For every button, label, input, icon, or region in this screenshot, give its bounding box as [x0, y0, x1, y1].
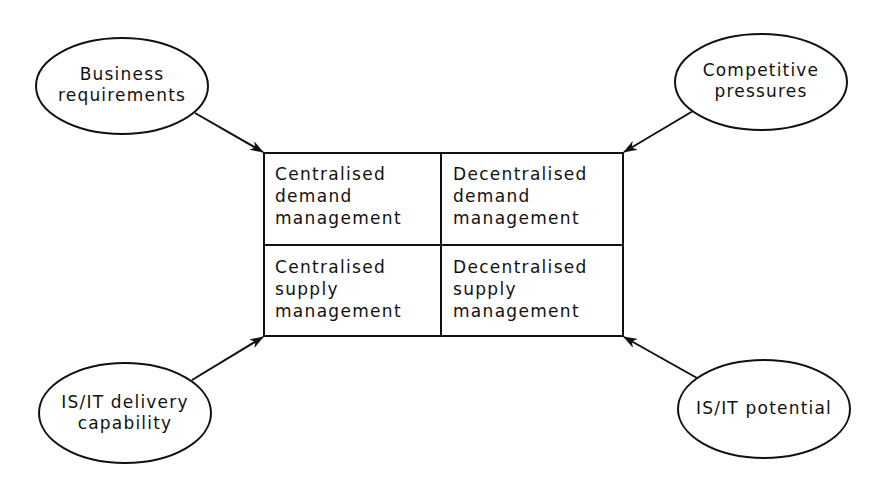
- cell-line: management: [453, 207, 588, 229]
- cell-line: Centralised: [275, 163, 402, 185]
- driver-line: IS/IT delivery: [39, 392, 211, 413]
- driver-line: pressures: [675, 81, 847, 102]
- cell-line: management: [275, 300, 402, 322]
- cell-line: Centralised: [275, 256, 402, 278]
- cell-decentralised-demand-management: Decentralised demand management: [453, 163, 588, 229]
- cell-decentralised-supply-management: Decentralised supply management: [453, 256, 588, 322]
- cell-line: management: [275, 207, 402, 229]
- driver-label-isit-delivery-capability: IS/IT delivery capability: [39, 392, 211, 434]
- arrow-competitive-pressures: [624, 111, 693, 152]
- cell-line: management: [453, 300, 588, 322]
- driver-line: Business: [36, 64, 208, 85]
- cell-line: supply: [453, 278, 588, 300]
- arrow-isit-delivery-capability: [192, 337, 263, 380]
- driver-line: capability: [39, 413, 211, 434]
- cell-centralised-demand-management: Centralised demand management: [275, 163, 402, 229]
- cell-line: demand: [453, 185, 588, 207]
- cell-line: supply: [275, 278, 402, 300]
- cell-line: Decentralised: [453, 256, 588, 278]
- driver-line: requirements: [36, 85, 208, 106]
- arrow-business-requirements: [195, 113, 263, 152]
- cell-centralised-supply-management: Centralised supply management: [275, 256, 402, 322]
- cell-line: Decentralised: [453, 163, 588, 185]
- driver-line: Competitive: [675, 60, 847, 81]
- driver-label-competitive-pressures: Competitive pressures: [675, 60, 847, 102]
- driver-line: IS/IT potential: [678, 398, 850, 419]
- driver-label-business-requirements: Business requirements: [36, 64, 208, 106]
- driver-label-isit-potential: IS/IT potential: [678, 398, 850, 419]
- cell-line: demand: [275, 185, 402, 207]
- arrow-isit-potential: [624, 337, 697, 378]
